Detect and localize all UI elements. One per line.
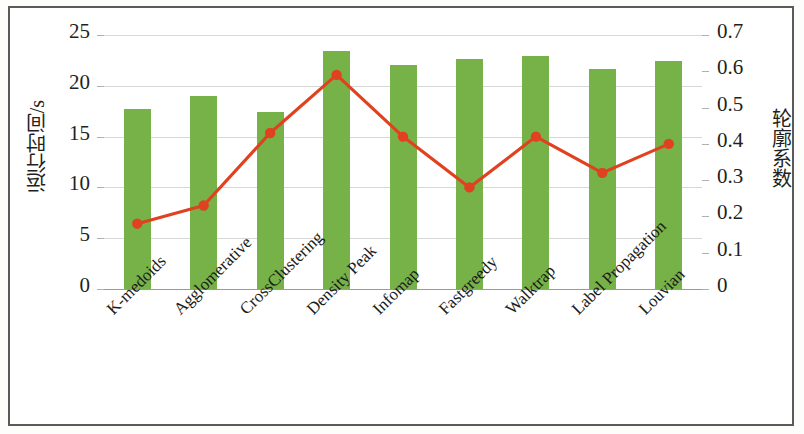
y2-axis-tick	[702, 180, 709, 181]
y2-axis-tick-label: 0.3	[717, 166, 743, 187]
y-axis-tick	[97, 35, 104, 36]
y2-axis-tick-label: 0.4	[717, 130, 743, 151]
bar	[456, 59, 483, 289]
bar	[589, 69, 616, 289]
gridline	[104, 35, 702, 36]
bar	[655, 61, 682, 289]
y2-axis-tick	[702, 71, 709, 72]
y-axis-tick-label: 20	[0, 72, 90, 93]
y-axis-tick	[97, 238, 104, 239]
plot-area	[104, 35, 702, 289]
chart-figure: 运行时间/s 轮廓系数 051015202500.10.20.30.40.50.…	[0, 0, 804, 434]
bar	[522, 56, 549, 289]
y2-axis-tick	[702, 108, 709, 109]
y2-axis-tick-label: 0.1	[717, 239, 743, 260]
y2-axis-tick	[702, 289, 709, 290]
y-axis-tick-label: 10	[0, 173, 90, 194]
y2-axis-tick-label: 0.7	[717, 21, 743, 42]
bar	[390, 65, 417, 289]
y2-axis-tick	[702, 253, 709, 254]
y-axis-tick-label: 5	[0, 224, 90, 245]
y-axis-tick-label: 25	[0, 21, 90, 42]
bar	[323, 51, 350, 289]
y2-axis-tick-label: 0.2	[717, 202, 743, 223]
y2-axis-tick	[702, 144, 709, 145]
y-axis-tick-label: 15	[0, 123, 90, 144]
y2-axis-tick-label: 0	[717, 275, 728, 296]
y-axis-tick	[97, 137, 104, 138]
y-axis-tick-label: 0	[0, 275, 90, 296]
y-axis-tick	[97, 187, 104, 188]
right-axis-title: 轮廓系数	[766, 108, 795, 188]
y2-axis-tick	[702, 216, 709, 217]
y2-axis-tick	[702, 35, 709, 36]
y-axis-tick	[97, 289, 104, 290]
y-axis-tick	[97, 86, 104, 87]
y2-axis-tick-label: 0.6	[717, 57, 743, 78]
y2-axis-tick-label: 0.5	[717, 94, 743, 115]
